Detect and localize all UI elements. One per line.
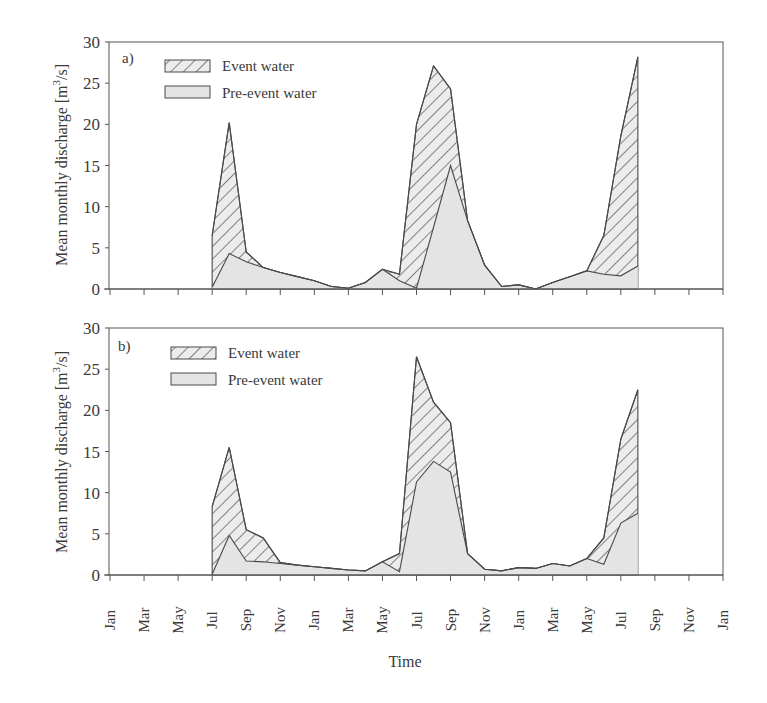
legend-swatch-pre-event (171, 373, 216, 385)
x-tick-label: May (374, 606, 390, 634)
legend-label-pre-event: Pre-event water (222, 85, 317, 101)
panel-a-label: a) (122, 50, 134, 67)
x-tick-labels: JanMarMayJulSepNovJanMarMayJulSepNovJanM… (102, 606, 731, 634)
legend-label-event: Event water (228, 345, 300, 361)
panel-b-legend: Event water Pre-event water (171, 345, 323, 388)
panel-b-xticks (104, 575, 723, 581)
legend-label-pre-event: Pre-event water (228, 372, 323, 388)
y-tick-label: 15 (83, 443, 100, 462)
legend-swatch-event (171, 347, 216, 359)
x-tick-label: Nov (681, 607, 697, 633)
y-tick-label: 5 (92, 525, 101, 544)
x-tick-label: Jul (409, 611, 425, 629)
y-tick-label: 25 (83, 74, 100, 93)
panel-b: b) 051015202530 Event water Pre-event wa… (50, 319, 723, 585)
x-tick-label: Sep (647, 609, 663, 632)
x-tick-label: May (170, 606, 186, 634)
discharge-figure: a) 051015202530 Event water Pre-event wa… (0, 0, 767, 703)
x-tick-label: Mar (545, 608, 561, 633)
x-tick-label: Jul (613, 611, 629, 629)
x-tick-label: Nov (272, 607, 288, 633)
x-tick-label: May (579, 606, 595, 634)
x-tick-label: Jan (511, 610, 527, 630)
x-tick-label: Jan (102, 610, 118, 630)
x-tick-label: Mar (340, 608, 356, 633)
x-tick-label: Mar (136, 608, 152, 633)
legend-label-event: Event water (222, 58, 294, 74)
y-tick-label: 10 (83, 198, 100, 217)
x-tick-label: Jul (204, 611, 220, 629)
y-tick-label: 20 (83, 115, 100, 134)
panel-a: a) 051015202530 Event water Pre-event wa… (50, 33, 723, 299)
y-tick-label: 25 (83, 360, 100, 379)
panel-a-ylabel: Mean monthly discharge [m3/s] (50, 64, 71, 266)
panel-b-yaxis: 051015202530 (83, 319, 109, 585)
y-tick-label: 15 (83, 157, 100, 176)
y-tick-label: 10 (83, 484, 100, 503)
legend-swatch-pre-event (165, 86, 210, 98)
y-tick-label: 30 (83, 319, 100, 338)
y-tick-label: 0 (92, 280, 101, 299)
x-axis-title: Time (388, 653, 421, 670)
y-tick-label: 20 (83, 401, 100, 420)
x-tick-label: Jan (715, 610, 731, 630)
y-tick-label: 0 (92, 566, 101, 585)
panel-b-ylabel: Mean monthly discharge [m3/s] (50, 351, 71, 553)
y-tick-label: 30 (83, 33, 100, 52)
panel-b-plot (212, 357, 638, 575)
y-tick-label: 5 (92, 239, 101, 258)
panel-a-legend: Event water Pre-event water (165, 58, 317, 101)
panel-b-label: b) (118, 338, 131, 355)
panel-a-yaxis: 051015202530 (83, 33, 109, 299)
x-tick-label: Sep (443, 609, 459, 632)
panel-a-xticks (104, 289, 723, 295)
x-tick-label: Sep (238, 609, 254, 632)
x-tick-label: Jan (306, 610, 322, 630)
x-tick-label: Nov (477, 607, 493, 633)
legend-swatch-event (165, 60, 210, 72)
